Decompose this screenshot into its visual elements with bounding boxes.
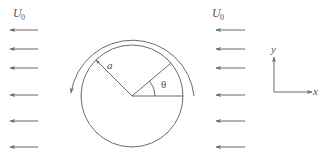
right-u-subscript: 0 bbox=[220, 13, 224, 22]
angle-label: θ bbox=[161, 78, 166, 90]
cylinder-flow-diagram: U 0 U 0 a θ y x bbox=[0, 0, 325, 157]
right-velocity-label: U 0 bbox=[212, 6, 224, 22]
right-flow-arrows bbox=[216, 30, 245, 147]
radius-label: a bbox=[107, 59, 113, 71]
left-u-subscript: 0 bbox=[21, 13, 25, 22]
y-axis-label: y bbox=[270, 43, 276, 55]
angle-arc bbox=[150, 81, 155, 96]
x-axis-label: x bbox=[312, 85, 318, 97]
radius-arrow-icon bbox=[96, 60, 132, 96]
left-flow-arrows bbox=[10, 30, 38, 147]
left-velocity-label: U 0 bbox=[13, 6, 25, 22]
coordinate-axes: y x bbox=[270, 43, 318, 97]
